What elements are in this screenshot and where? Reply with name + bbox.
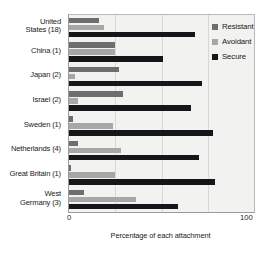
- bar-resistant-4: [69, 116, 73, 122]
- bar-secure-2: [69, 81, 202, 87]
- bar-resistant-3: [69, 91, 123, 97]
- bar-avoidant-7: [69, 197, 136, 203]
- category-label: West Germany (3): [0, 190, 61, 207]
- category-axis: United States (18)China (1)Japan (2)Isra…: [0, 14, 64, 211]
- bar-resistant-2: [69, 67, 119, 73]
- bar-secure-0: [69, 32, 195, 38]
- x-tick-label-min: 0: [67, 213, 71, 222]
- bar-secure-5: [69, 155, 199, 161]
- bar-secure-7: [69, 204, 178, 210]
- bar-resistant-1: [69, 42, 115, 48]
- category-label: Sweden (1): [0, 121, 61, 130]
- category-label: Netherlands (4): [0, 145, 61, 154]
- bar-avoidant-0: [69, 25, 104, 31]
- bar-secure-1: [69, 56, 163, 62]
- category-label: Israel (2): [0, 96, 61, 105]
- category-label: Great Britain (1): [0, 170, 61, 179]
- x-axis: 0 100: [60, 213, 270, 225]
- category-label: United States (18): [0, 18, 61, 35]
- legend-label: Secure: [222, 52, 246, 61]
- category-label: China (1): [0, 47, 61, 56]
- bar-resistant-5: [69, 141, 78, 147]
- bar-avoidant-2: [69, 74, 75, 80]
- bar-avoidant-6: [69, 172, 115, 178]
- x-tick-label-max: 100: [240, 213, 253, 222]
- attachment-bar-chart: United States (18)China (1)Japan (2)Isra…: [0, 0, 276, 257]
- chart-legend: ResistantAvoidantSecure: [212, 20, 274, 65]
- bar-secure-4: [69, 130, 213, 136]
- legend-label: Resistant: [222, 22, 254, 31]
- bar-secure-6: [69, 179, 215, 185]
- legend-swatch-icon: [212, 39, 218, 45]
- bar-secure-3: [69, 105, 191, 111]
- legend-swatch-icon: [212, 54, 218, 60]
- bar-avoidant-4: [69, 123, 113, 129]
- bar-avoidant-1: [69, 49, 115, 55]
- x-axis-title: Percentage of each attachment: [68, 231, 253, 240]
- legend-item-avoidant[interactable]: Avoidant: [212, 35, 274, 48]
- category-label: Japan (2): [0, 71, 61, 80]
- bar-avoidant-3: [69, 98, 78, 104]
- bar-avoidant-5: [69, 148, 121, 154]
- legend-item-resistant[interactable]: Resistant: [212, 20, 274, 33]
- bar-resistant-7: [69, 190, 84, 196]
- legend-item-secure[interactable]: Secure: [212, 50, 274, 63]
- bar-resistant-0: [69, 18, 99, 24]
- bar-resistant-6: [69, 165, 71, 171]
- legend-label: Avoidant: [222, 37, 251, 46]
- legend-swatch-icon: [212, 24, 218, 30]
